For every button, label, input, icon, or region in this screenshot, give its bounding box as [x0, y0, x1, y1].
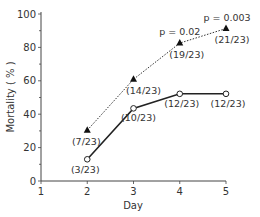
y-tick-label: 60: [23, 75, 36, 86]
triangle-label: (21/23): [215, 34, 250, 45]
solid-circle-line: [87, 94, 226, 160]
p-value-annotation: p = 0.003: [203, 12, 250, 23]
triangle-marker: [223, 25, 230, 32]
triangle-label: (7/23): [72, 136, 101, 147]
y-axis-title: Mortality ( % ): [5, 61, 16, 132]
circle-marker: [84, 156, 90, 162]
y-tick-label: 80: [23, 42, 36, 53]
circle-marker: [177, 91, 183, 97]
circle-label: (12/23): [211, 98, 246, 109]
x-tick-label: 4: [177, 186, 183, 197]
x-tick-label: 1: [38, 186, 44, 197]
x-tick-label: 5: [223, 186, 229, 197]
y-tick-label: 100: [17, 9, 36, 20]
dashed-triangle-line: [87, 29, 226, 131]
x-axis-title: Day: [123, 200, 143, 211]
circle-label: (10/23): [121, 112, 156, 123]
circle-marker: [131, 106, 137, 112]
triangle-label: (19/23): [169, 49, 204, 60]
p-value-annotation: p = 0.02: [159, 26, 200, 37]
x-tick-label: 3: [130, 186, 136, 197]
y-tick-label: 20: [23, 142, 36, 153]
circle-label: (3/23): [71, 164, 100, 175]
circle-marker: [223, 91, 229, 97]
y-tick-label: 40: [23, 109, 36, 120]
mortality-chart: 02040608010012345 (7/23)(14/23)(19/23)(2…: [0, 0, 260, 217]
x-tick-label: 2: [84, 186, 90, 197]
triangle-label: (14/23): [126, 85, 161, 96]
y-tick-label: 0: [30, 176, 36, 187]
triangle-marker: [130, 75, 137, 82]
circle-label: (12/23): [164, 98, 199, 109]
